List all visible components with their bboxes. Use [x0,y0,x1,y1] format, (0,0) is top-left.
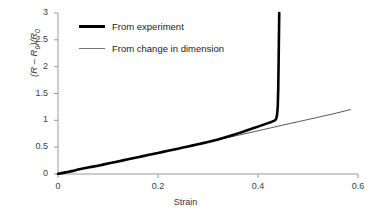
y-axis-title-prefix: (R – R [28,50,39,77]
x-axis-ticks [58,174,358,178]
x-axis-tick-label: 0.6 [343,182,371,191]
legend-label-experiment: From experiment [112,22,184,32]
y-axis-tick-label: 0 [22,169,48,178]
x-axis-tick-label: 0.4 [243,182,273,191]
y-axis-title: (R – R0)/R0 [29,29,41,77]
x-axis-tick-label: 0.2 [143,182,173,191]
y-axis-title-wrapper: (R – R0)/R0 [23,0,37,133]
data-series-group [58,13,351,174]
legend-entry-dimension: From change in dimension [79,44,224,54]
x-axis-title: Strain [0,198,371,207]
legend-entry-experiment: From experiment [79,22,184,32]
legend-label-dimension: From change in dimension [112,44,224,54]
chart-container: 00.511.522.53 00.20.40.6 Strain (R – R0)… [0,0,371,218]
legend-swatch-dimension [79,48,105,49]
y-axis-tick-label: 0.5 [22,142,48,151]
y-axis-title-mid: )/R [28,33,39,46]
x-axis-tick-label: 0 [43,182,73,191]
legend-swatch-experiment [79,25,105,28]
y-axis-title-subscript-1: 0 [34,46,41,50]
data-series-line [58,13,279,174]
y-axis-ticks [54,13,58,174]
y-axis-title-subscript-2: 0 [34,29,41,33]
